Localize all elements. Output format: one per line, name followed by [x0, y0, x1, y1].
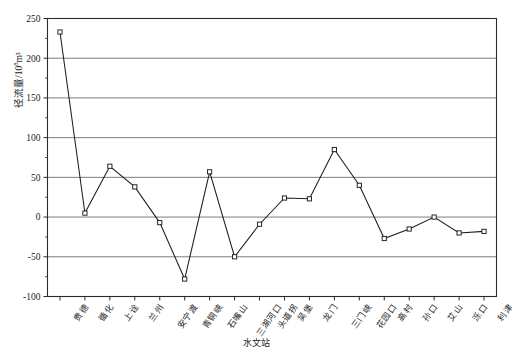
y-tick-label: 50: [31, 173, 41, 183]
y-tick-group: -100-50050100150200250: [23, 14, 47, 302]
y-tick-label: 200: [26, 54, 41, 64]
data-point-marker: [482, 229, 486, 233]
data-point-marker: [232, 255, 236, 259]
data-point-marker: [83, 211, 87, 215]
y-tick-label: 100: [26, 133, 41, 143]
data-point-marker: [307, 197, 311, 201]
data-point-marker: [133, 185, 137, 189]
data-point-marker: [183, 277, 187, 281]
y-axis-label: 径流量/108m³: [13, 52, 25, 108]
data-point-marker: [382, 236, 386, 240]
gridline-group: [48, 58, 497, 257]
data-point-marker: [108, 164, 112, 168]
y-tick-label: 150: [26, 93, 41, 103]
data-point-marker: [257, 222, 261, 226]
y-axis-label-wrapper: 径流量/108m³: [2, 108, 16, 228]
data-point-marker: [208, 170, 212, 174]
x-axis-title: 水文站: [0, 336, 512, 349]
data-point-marker: [457, 231, 461, 235]
data-point-marker: [432, 215, 436, 219]
data-point-marker: [158, 221, 162, 225]
y-tick-label: 250: [26, 14, 41, 24]
data-point-marker: [332, 147, 336, 151]
x-tick-group: [60, 297, 484, 301]
data-point-marker: [58, 30, 62, 34]
data-point-marker: [407, 227, 411, 231]
y-tick-label: 0: [36, 212, 41, 222]
y-tick-label: -100: [23, 292, 41, 302]
data-point-markers: [58, 30, 486, 281]
data-point-marker: [282, 196, 286, 200]
plot-frame-border: [48, 19, 497, 297]
runoff-series-line: [60, 32, 484, 279]
y-tick-label: -50: [28, 252, 41, 262]
data-point-marker: [357, 183, 361, 187]
